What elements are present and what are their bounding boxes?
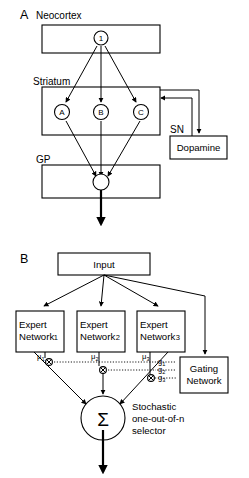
expert-1-line1: Expert <box>19 319 47 330</box>
label-gp: GP <box>36 154 51 165</box>
expert-3-index: 3 <box>176 333 180 342</box>
mu-2-label: μ2 <box>91 352 99 362</box>
expert-2-line2: Network <box>80 331 115 342</box>
gp-node <box>93 174 109 190</box>
expert-1-line2: Network <box>19 331 54 342</box>
mu-3-label: μ3 <box>142 352 150 362</box>
dopamine-box-label: Dopamine <box>177 142 221 153</box>
expert-2-index: 2 <box>116 333 120 342</box>
label-neocortex: Neocortex <box>36 10 82 21</box>
panel-a-group: A Neocortex Striatum GP SN 1 A B C Dopam… <box>20 8 227 224</box>
expert-3-line2: Network <box>140 331 175 342</box>
striatum-node-c-label: C <box>138 108 144 117</box>
arrow-input-to-expert-2 <box>101 275 104 306</box>
selector-caption-line-2: one-out-of-n <box>132 413 184 424</box>
expert-3-line1: Expert <box>140 319 168 330</box>
diagram-svg: A Neocortex Striatum GP SN 1 A B C Dopam… <box>0 0 249 478</box>
arrow-input-to-expert-1 <box>44 275 104 306</box>
expert-1-index: 1 <box>54 333 58 342</box>
multiply-node-3 <box>148 375 155 382</box>
arrow-input-to-expert-3 <box>104 275 158 306</box>
gating-line1: Gating <box>190 363 218 374</box>
figure-canvas: A Neocortex Striatum GP SN 1 A B C Dopam… <box>0 0 249 478</box>
panel-b-group: Input Expert Network 1 Expert Network 2 … <box>16 252 228 472</box>
label-striatum: Striatum <box>33 76 70 87</box>
selector-caption-line-3: selector <box>132 425 166 436</box>
summation-symbol: Σ <box>97 409 109 430</box>
striatum-node-b-label: B <box>98 108 103 117</box>
panel-a-letter: A <box>20 8 29 22</box>
striatum-node-a-label: A <box>59 108 65 117</box>
gating-line2: Network <box>186 375 221 386</box>
mu-1-label: μ1 <box>37 352 45 362</box>
selector-caption-line-1: Stochastic <box>132 401 176 412</box>
input-box-label: Input <box>93 259 115 270</box>
label-sn: SN <box>170 124 184 135</box>
multiply-node-2 <box>100 367 107 374</box>
expert-2-line1: Expert <box>80 319 108 330</box>
panel-b-letter: B <box>20 252 28 266</box>
cortex-node-1-label: 1 <box>99 34 104 43</box>
